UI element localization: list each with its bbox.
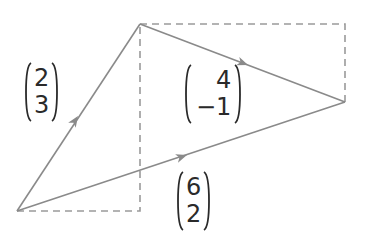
vector-b-label: 4 −1 (185, 64, 241, 124)
vector-a-bottom: 3 (34, 92, 49, 119)
vector-b-bottom: −1 (196, 94, 231, 121)
vector-sum-bottom: 2 (186, 201, 201, 228)
arrowhead-sum-icon (175, 151, 188, 163)
left-paren-icon (177, 171, 184, 231)
right-paren-icon (203, 171, 210, 231)
vector-sum-top: 6 (186, 174, 201, 201)
vector-b-top: 4 (216, 67, 231, 94)
left-paren-icon (25, 62, 32, 122)
right-paren-icon (234, 64, 241, 124)
vector-a-label: 2 3 (25, 62, 58, 122)
left-paren-icon (185, 64, 192, 124)
vector-a-top: 2 (34, 65, 49, 92)
right-paren-icon (51, 62, 58, 122)
vector-sum-label: 6 2 (177, 171, 210, 231)
